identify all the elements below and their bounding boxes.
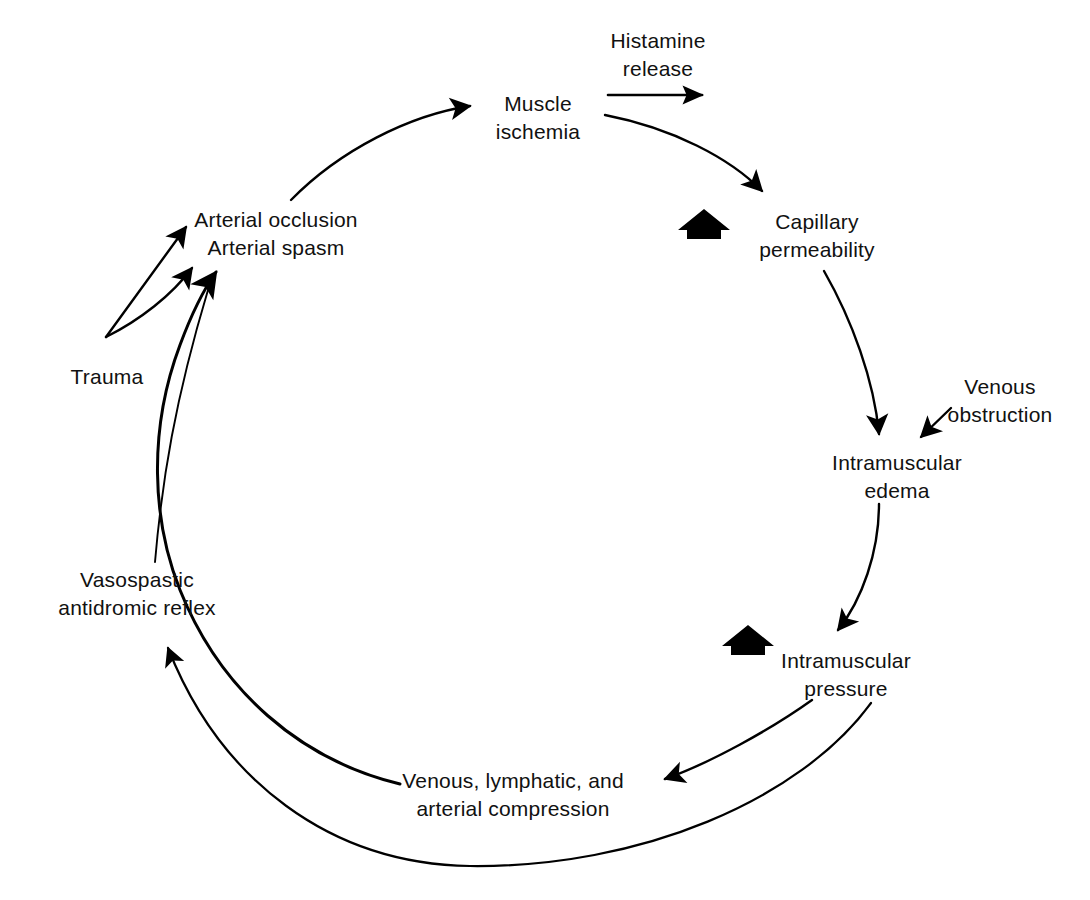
edge-label-histamine-line-2: release: [610, 55, 705, 83]
edge-pressure-to-compression: [665, 700, 812, 779]
node-venous-obstruction: Venous obstruction: [948, 373, 1053, 428]
edge-compression-to-arterial: [157, 272, 400, 784]
edge-ischemia-to-capillary: [605, 115, 762, 191]
node-vasospastic-antidromic-reflex: Vasospastic antidromic reflex: [58, 566, 215, 621]
edge-venous-obstruction-to-edema: [921, 408, 951, 437]
node-capillary-permeability: Capillary permeability: [759, 208, 875, 263]
node-vasospastic-line-2: antidromic reflex: [58, 594, 215, 622]
node-arterial-spasm-line: Arterial spasm: [194, 234, 358, 262]
edge-edema-to-pressure: [838, 504, 879, 630]
node-muscle-ischemia-line-1: Muscle: [496, 90, 580, 118]
node-arterial-occlusion-line: Arterial occlusion: [194, 206, 358, 234]
edge-label-histamine-release: Histamine release: [610, 27, 705, 82]
edge-pressure-outer-to-vasospastic: [168, 648, 871, 866]
node-muscle-ischemia-line-2: ischemia: [496, 118, 580, 146]
node-muscle-ischemia: Muscle ischemia: [496, 90, 580, 145]
node-compression-line-1: Venous, lymphatic, and: [402, 767, 624, 795]
node-intramuscular-edema: Intramuscular edema: [832, 449, 962, 504]
node-intramuscular-edema-line-1: Intramuscular: [832, 449, 962, 477]
node-trauma-line-1: Trauma: [71, 363, 144, 391]
edge-capillary-to-edema: [824, 271, 879, 434]
node-trauma: Trauma: [71, 363, 144, 391]
node-arterial-occlusion-spasm: Arterial occlusion Arterial spasm: [194, 206, 358, 261]
node-intramuscular-pressure-line-1: Intramuscular: [781, 647, 911, 675]
node-venous-obstruction-line-2: obstruction: [948, 401, 1053, 429]
edge-trauma-to-occlusion: [106, 227, 186, 337]
node-capillary-permeability-line-1: Capillary: [759, 208, 875, 236]
node-intramuscular-edema-line-2: edema: [832, 477, 962, 505]
diagram-canvas: Muscle ischemia Capillary permeability I…: [0, 0, 1090, 900]
edge-arterial-to-ischemia: [291, 106, 470, 200]
node-compression-line-2: arterial compression: [402, 795, 624, 823]
node-venous-obstruction-line-1: Venous: [948, 373, 1053, 401]
node-capillary-permeability-line-2: permeability: [759, 236, 875, 264]
node-intramuscular-pressure-line-2: pressure: [781, 675, 911, 703]
edge-label-histamine-line-1: Histamine: [610, 27, 705, 55]
increase-arrow-icon-intramuscular-pressure: [720, 622, 776, 662]
node-intramuscular-pressure: Intramuscular pressure: [781, 647, 911, 702]
node-venous-lymphatic-arterial-compression: Venous, lymphatic, and arterial compress…: [402, 767, 624, 822]
node-vasospastic-line-1: Vasospastic: [58, 566, 215, 594]
increase-arrow-icon-capillary-permeability: [676, 206, 732, 246]
edge-vasospastic-to-arterial: [155, 290, 208, 562]
